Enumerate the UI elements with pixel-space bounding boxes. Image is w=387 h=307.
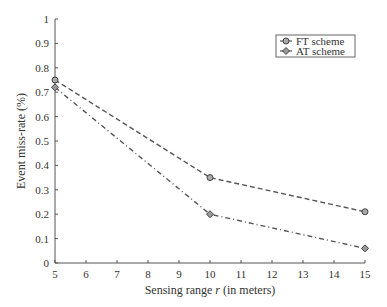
- x-tick-label: 13: [298, 268, 310, 280]
- x-tick-label: 15: [360, 268, 372, 280]
- y-tick-label: 0.5: [35, 135, 49, 147]
- x-tick-label: 11: [236, 268, 247, 280]
- series-line: [55, 87, 365, 248]
- plot-series: [52, 77, 369, 252]
- y-axis-label: Event miss-rate (%): [14, 93, 28, 189]
- y-tick-label: 0.6: [35, 111, 49, 123]
- x-tick-label: 9: [176, 268, 182, 280]
- y-tick-label: 0.8: [35, 62, 49, 74]
- y-tick-label: 1: [44, 13, 50, 25]
- legend: FT schemeAT scheme: [276, 35, 355, 57]
- x-tick-label: 7: [114, 268, 120, 280]
- x-tick-label: 8: [145, 268, 151, 280]
- circle-marker-icon: [362, 209, 368, 215]
- diamond-marker-icon: [362, 245, 369, 252]
- x-axis-label: Sensing range r (in meters): [145, 283, 276, 297]
- circle-marker-icon: [207, 175, 213, 181]
- x-tick-label: 5: [52, 268, 58, 280]
- y-tick-label: 0.1: [35, 233, 49, 245]
- y-tick-label: 0.9: [35, 37, 49, 49]
- series-line: [55, 80, 365, 212]
- circle-marker-icon: [283, 38, 289, 44]
- y-tick-label: 0: [44, 257, 50, 269]
- legend-label: AT scheme: [296, 45, 345, 57]
- series-at-scheme: [52, 84, 369, 252]
- x-tick-label: 6: [83, 268, 89, 280]
- circle-marker-icon: [52, 77, 58, 83]
- y-tick-label: 0.4: [35, 159, 49, 171]
- line-chart: 00.10.20.30.40.50.60.70.80.9156789101112…: [0, 0, 387, 307]
- series-ft-scheme: [52, 77, 368, 215]
- x-tick-label: 14: [329, 268, 341, 280]
- y-tick-label: 0.7: [35, 86, 49, 98]
- y-tick-label: 0.3: [35, 184, 49, 196]
- x-tick-label: 10: [205, 268, 217, 280]
- x-tick-label: 12: [267, 268, 278, 280]
- y-tick-label: 0.2: [35, 208, 49, 220]
